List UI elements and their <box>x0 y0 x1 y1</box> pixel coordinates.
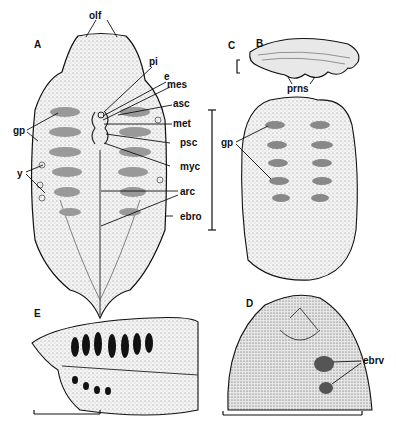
label-ebro: ebro <box>180 212 202 222</box>
panel-label-d: D <box>246 299 253 309</box>
scale-bar-a <box>208 110 216 230</box>
panel-e-lateral <box>32 318 198 416</box>
panel-b-plate <box>242 97 358 280</box>
panel-label-e: E <box>34 309 41 319</box>
label-psc: psc <box>180 138 197 148</box>
scale-bar-d <box>223 411 362 415</box>
label-pi: pi <box>149 57 158 67</box>
label-gp-a: gp <box>13 126 25 136</box>
panel-c-plate <box>250 39 359 84</box>
scale-bar-c <box>237 60 240 73</box>
panel-label-a: A <box>34 40 41 50</box>
label-met: met <box>173 119 191 129</box>
panel-d-ventral <box>228 295 372 410</box>
label-ebrv: ebrv <box>363 356 384 366</box>
label-prns: prns <box>287 84 309 94</box>
panel-a-shield <box>32 34 167 319</box>
label-y: y <box>17 169 23 179</box>
label-arc: arc <box>180 187 195 197</box>
label-olf: olf <box>89 11 101 21</box>
label-myc: myc <box>180 162 200 172</box>
label-asc: asc <box>173 99 190 109</box>
panel-label-b: B <box>256 39 263 49</box>
label-mes: mes <box>167 80 187 90</box>
panel-label-c: C <box>228 41 235 51</box>
label-gp-b: gp <box>221 138 233 148</box>
